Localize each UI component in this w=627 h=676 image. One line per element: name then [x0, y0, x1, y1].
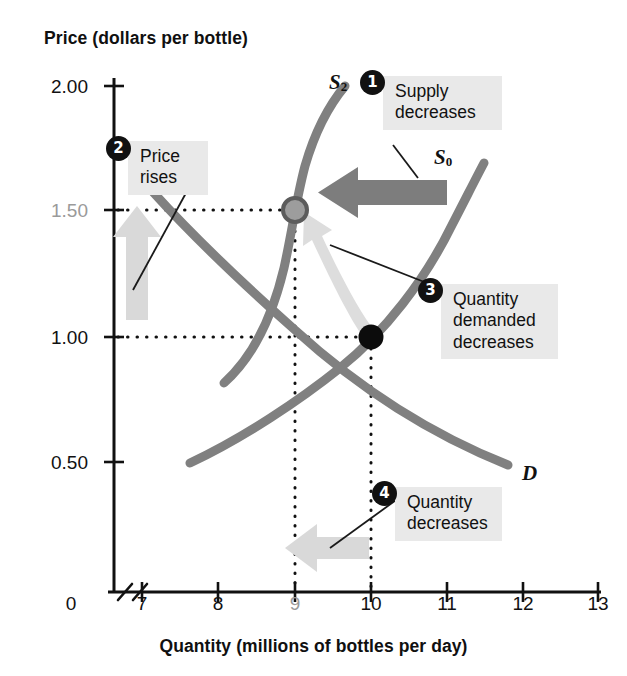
callout-badge-2: 2 [106, 136, 131, 161]
callout-quantity-decreases: Quantity decreases [395, 487, 502, 541]
callout-price-rises: Price rises [128, 141, 208, 195]
x-tick-label-13: 13 [578, 594, 618, 613]
callout-badge-4: 4 [372, 481, 397, 506]
equilibrium-point-new [283, 198, 307, 222]
price-rises-arrow [113, 206, 161, 320]
x-tick-label-8: 8 [198, 594, 238, 613]
equilibrium-point-original [359, 325, 384, 350]
x-tick-label-10: 10 [351, 594, 391, 613]
x-tick-label-12: 12 [503, 594, 543, 613]
curve-label-s0-sub: 0 [446, 154, 453, 169]
figure-container: Price (dollars per bottle) Quantity (mil… [0, 0, 627, 676]
curve-label-s2: S2 [329, 70, 347, 95]
callout-quantity-demanded-decreases: Quantity demanded decreases [441, 284, 558, 359]
curve-label-s2-sub: 2 [341, 79, 348, 94]
supply-decreases-arrow [318, 167, 447, 218]
callout-supply-decreases: Supply decreases [383, 76, 502, 130]
y-tick-label-2-00: 2.00 [14, 77, 88, 96]
quantity-decreases-arrow [285, 524, 369, 572]
y-tick-label-1-50: 1.50 [14, 201, 88, 220]
supply-curve-original [190, 163, 484, 463]
y-tick-label-0-50: 0.50 [14, 453, 88, 472]
x-tick-label-0: 0 [51, 594, 91, 613]
x-tick-label-7: 7 [122, 594, 162, 613]
x-tick-label-11: 11 [427, 594, 467, 613]
curve-label-s2-text: S [329, 70, 341, 94]
curve-label-d: D [522, 461, 537, 486]
callout-badge-3: 3 [418, 278, 443, 303]
quantity-demanded-decreases-arrow [303, 212, 371, 334]
callout-badge-1: 1 [360, 70, 385, 95]
y-tick-label-1-00: 1.00 [14, 328, 88, 347]
curve-label-s0-text: S [434, 145, 446, 169]
curve-label-s0: S0 [434, 145, 452, 170]
x-tick-label-9: 9 [275, 594, 315, 613]
